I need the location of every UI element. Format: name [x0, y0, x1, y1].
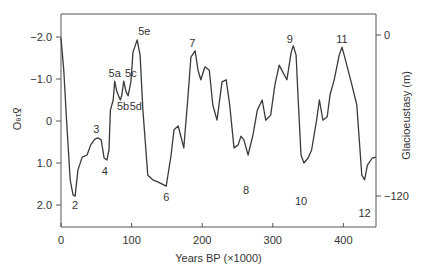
- stage-label: 10: [295, 195, 307, 207]
- x-axis-title: Years BP (×1000): [175, 252, 262, 264]
- y-tick-label: 2.0: [37, 199, 52, 211]
- stage-label: 9: [287, 33, 293, 45]
- y-tick-label: 0: [46, 115, 52, 127]
- stage-label: 5a: [109, 67, 122, 79]
- x-tick-label: 100: [122, 234, 140, 246]
- stage-label: 8: [243, 184, 249, 196]
- x-tick-label: 200: [193, 234, 211, 246]
- stage-label: 6: [163, 191, 169, 203]
- stage-label: 5c: [125, 67, 137, 79]
- x-tick-label: 300: [264, 234, 282, 246]
- stage-label: 7: [189, 37, 195, 49]
- x-tick-label: 0: [58, 234, 64, 246]
- y2-tick-label: −120: [384, 190, 409, 202]
- stage-annotations: 2345a5b5c5d5e6789101112: [72, 25, 371, 220]
- y2-tick-label: 0: [384, 29, 390, 41]
- stage-label: 4: [102, 165, 108, 177]
- y-tick-label: −2.0: [30, 31, 52, 43]
- data-line: [61, 38, 376, 196]
- y-tick-label: −1.0: [30, 73, 52, 85]
- y-tick-label: 1.0: [37, 157, 52, 169]
- chart: 0100200300400−2.0−1.001.02.00−120Years B…: [0, 0, 433, 278]
- axis-labels: 0100200300400−2.0−1.001.02.00−120Years B…: [11, 29, 412, 264]
- y2-axis-title: Glacioeustasy (m): [400, 71, 412, 160]
- stage-label: 3: [93, 123, 99, 135]
- stage-label: 11: [336, 33, 347, 45]
- stage-label: 5d: [130, 100, 142, 112]
- axes: [56, 14, 381, 227]
- x-tick-label: 400: [334, 234, 352, 246]
- y-axis-title: δ¹⁸O: [11, 107, 23, 130]
- stage-label: 12: [358, 207, 370, 219]
- stage-label: 2: [72, 199, 78, 211]
- stage-label: 5b: [117, 100, 129, 112]
- stage-label: 5e: [138, 25, 150, 37]
